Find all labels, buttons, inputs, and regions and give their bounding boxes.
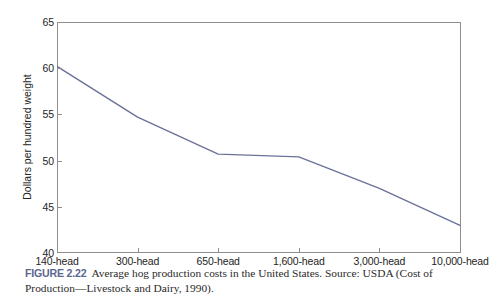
y-axis-tick-label: 55 <box>28 109 54 119</box>
y-axis-tick-label: 50 <box>28 156 54 166</box>
data-series-line <box>57 66 460 225</box>
y-axis-tick-label: 60 <box>28 63 54 73</box>
y-axis-tick-label: 65 <box>28 17 54 27</box>
y-axis-tick-mark <box>57 68 62 69</box>
y-axis-tick-labels: 404550556065 <box>24 0 54 262</box>
y-axis-tick-label: 45 <box>28 202 54 212</box>
y-axis-tick-mark <box>57 114 62 115</box>
y-axis-tick-mark <box>57 207 62 208</box>
chart-area: Dollars per hundred weight 404550556065 … <box>0 0 478 262</box>
figure-caption-text: Average hog production costs in the Unit… <box>25 267 433 294</box>
line-chart-plot <box>57 22 461 253</box>
x-axis-tick-mark <box>218 248 219 253</box>
figure-number-label: FIGURE 2.22 <box>25 267 86 279</box>
x-axis-tick-mark <box>379 248 380 253</box>
x-axis-tick-mark <box>138 248 139 253</box>
y-axis-tick-mark <box>57 161 62 162</box>
figure-caption: FIGURE 2.22Average hog production costs … <box>25 266 465 295</box>
x-axis-tick-mark <box>299 248 300 253</box>
